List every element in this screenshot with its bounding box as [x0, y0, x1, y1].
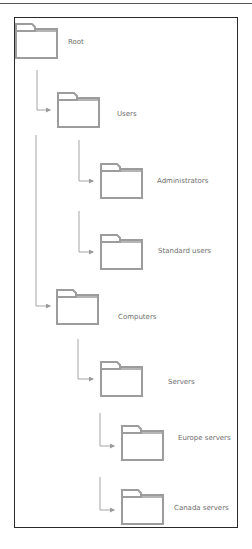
connector-servers-canada — [100, 477, 114, 510]
connector-servers-europe — [100, 413, 114, 446]
connectors — [36, 70, 114, 510]
connector-root-computers — [36, 135, 50, 306]
folder-icon-servers — [101, 362, 142, 396]
node-label-users: Users — [117, 110, 137, 118]
node-label-computers: Computers — [118, 313, 156, 321]
node-label-canada-servers: Canada servers — [174, 504, 229, 512]
node-label-servers: Servers — [168, 378, 195, 386]
node-label-administrators: Administrators — [157, 177, 208, 185]
folder-icon-computers — [57, 290, 98, 324]
connector-computers-servers — [78, 339, 93, 379]
folder-icon-administrators — [101, 164, 142, 198]
connector-users-standard — [79, 211, 93, 252]
node-label-standard-users: Standard users — [158, 247, 211, 255]
folder-icon-standard-users — [101, 235, 142, 269]
node-label-root: Root — [68, 38, 84, 46]
folder-icon-root — [16, 24, 57, 58]
folder-icon-canada-servers — [122, 490, 163, 524]
connector-users-administrators — [79, 140, 93, 181]
node-label-europe-servers: Europe servers — [178, 434, 231, 442]
tree-diagram — [0, 0, 252, 549]
folder-icon-users — [58, 93, 99, 127]
folder-icon-europe-servers — [122, 426, 163, 460]
connector-root-users — [37, 70, 50, 110]
